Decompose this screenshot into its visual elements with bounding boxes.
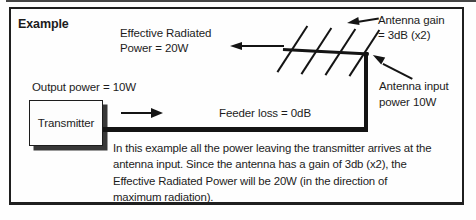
transmitter-box-label: Transmitter [38, 117, 95, 129]
antenna-input-label: Antenna input power 10W [379, 78, 449, 110]
erp-label-line1: Effective Radiated [120, 26, 211, 41]
output-power-label: Output power = 10W [32, 80, 136, 95]
erp-label-line2: Power = 20W [120, 41, 211, 56]
explanation-line-3: Effective Radiated Power will be 20W (in… [113, 173, 465, 189]
arrow-shaft [121, 112, 152, 114]
explanation-paragraph: In this example all the power leaving th… [113, 140, 465, 205]
arrow-shaft [241, 45, 284, 47]
antenna-input-label-line1: Antenna input [379, 78, 449, 94]
feeder-loss-label: Feeder loss = 0dB [219, 106, 311, 121]
feeder-line [103, 127, 368, 132]
transmitter-box: Transmitter [29, 100, 103, 146]
antenna-input-label-line2: power 10W [379, 94, 449, 110]
antenna-feed-line [364, 52, 369, 132]
scan-edge-line [6, 0, 476, 2]
erp-label: Effective Radiated Power = 20W [120, 26, 211, 56]
explanation-line-1: In this example all the power leaving th… [113, 140, 465, 156]
right-arrowhead-icon [151, 108, 163, 118]
antenna-gain-label: Antenna gain = 3dB (x2) [378, 13, 445, 43]
antenna-gain-label-line1: Antenna gain [378, 13, 445, 28]
explanation-line-4: maximum radiation). [113, 189, 465, 205]
antenna-gain-figure: Example Effective Radiated Power = 20W O… [0, 0, 476, 220]
figure-title: Example [18, 17, 69, 32]
explanation-line-2: antenna input. Since the antenna has a g… [113, 156, 465, 172]
antenna-gain-label-line2: = 3dB (x2) [378, 28, 445, 43]
